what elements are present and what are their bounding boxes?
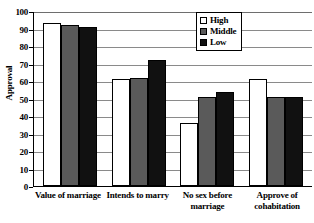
white-square-icon xyxy=(200,17,207,24)
bar-low xyxy=(216,92,234,187)
plot-area xyxy=(33,12,312,187)
bar-group xyxy=(249,12,303,186)
y-tick-label: 0 xyxy=(24,183,28,192)
bar-middle xyxy=(130,78,148,187)
x-axis-label: Approve of cohabitation xyxy=(243,190,311,213)
y-tick-mark xyxy=(29,187,33,188)
y-tick-label: 80 xyxy=(20,43,28,52)
legend-label: Middle xyxy=(210,27,236,36)
bar-high xyxy=(180,123,198,186)
bar-middle xyxy=(61,25,79,186)
y-tick-label: 20 xyxy=(20,148,28,157)
bar-high xyxy=(112,79,130,186)
legend-item: Low xyxy=(200,37,236,48)
y-tick-label: 100 xyxy=(15,8,28,17)
legend-item: High xyxy=(200,15,236,26)
legend: HighMiddleLow xyxy=(196,12,242,51)
legend-item: Middle xyxy=(200,26,236,37)
bar-chart: Approval 1009080706050403020100 Value of… xyxy=(0,0,314,223)
bar-group xyxy=(43,12,97,186)
y-tick-label: 90 xyxy=(20,25,28,34)
y-axis-ticks: 1009080706050403020100 xyxy=(0,0,33,223)
gray-square-icon xyxy=(200,28,207,35)
bar-middle xyxy=(267,97,285,186)
bar-high xyxy=(43,23,61,186)
x-axis-label: Value of marriage xyxy=(34,190,102,213)
legend-label: Low xyxy=(210,38,226,47)
legend-label: High xyxy=(210,16,228,25)
y-tick-label: 10 xyxy=(20,165,28,174)
y-tick-label: 60 xyxy=(20,78,28,87)
x-axis-label: No sex before marriage xyxy=(173,190,241,213)
y-tick-label: 70 xyxy=(20,60,28,69)
bar-low xyxy=(148,60,166,186)
y-tick-label: 40 xyxy=(20,113,28,122)
bar-group xyxy=(112,12,166,186)
bar-groups xyxy=(34,12,312,186)
x-axis-labels: Value of marriageIntends to marryNo sex … xyxy=(33,190,312,213)
y-tick-label: 50 xyxy=(20,95,28,104)
bar-low xyxy=(285,97,303,186)
bar-high xyxy=(249,79,267,186)
x-axis-label: Intends to marry xyxy=(104,190,172,213)
bar-low xyxy=(79,27,97,186)
bar-middle xyxy=(198,97,216,186)
black-square-icon xyxy=(200,39,207,46)
y-tick-label: 30 xyxy=(20,130,28,139)
